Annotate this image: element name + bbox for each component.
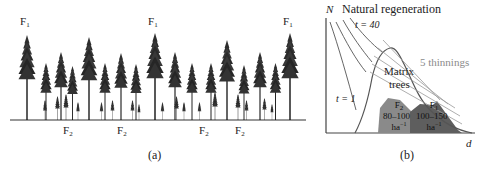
sapling bbox=[161, 102, 165, 120]
tree bbox=[168, 52, 182, 120]
t1-label: t = 1 bbox=[336, 94, 356, 104]
tree bbox=[40, 63, 51, 120]
tree bbox=[54, 52, 68, 120]
label-f2-2: F2 bbox=[117, 125, 127, 138]
y-axis-label: N bbox=[326, 4, 333, 15]
sapling bbox=[131, 100, 135, 120]
sapling bbox=[111, 100, 115, 120]
tree bbox=[219, 40, 235, 120]
sapling bbox=[270, 104, 273, 120]
label-f1-right: F1 bbox=[283, 16, 293, 29]
label-f1-left: F1 bbox=[20, 16, 30, 29]
label-f1-middle: F1 bbox=[148, 16, 158, 29]
tree bbox=[186, 63, 197, 120]
caption-b: (b) bbox=[400, 148, 414, 163]
thinnings-label: 5 thinnings bbox=[420, 57, 469, 68]
sapling bbox=[198, 102, 202, 120]
tree bbox=[114, 53, 127, 120]
sapling bbox=[262, 98, 266, 120]
f2-region-label: F2 80–100 ha−1 bbox=[389, 101, 409, 132]
tree-f1 bbox=[19, 35, 36, 120]
tree bbox=[81, 37, 98, 120]
tree bbox=[239, 65, 250, 120]
sapling bbox=[55, 96, 60, 120]
tree bbox=[67, 66, 78, 120]
f1-region-label: F1 100–150 ha−1 bbox=[422, 101, 446, 132]
sapling bbox=[245, 100, 249, 120]
tree-f1 bbox=[281, 33, 298, 120]
tree bbox=[253, 52, 267, 120]
sapling bbox=[235, 94, 240, 120]
trees-label: trees bbox=[389, 79, 410, 90]
label-f2-4: F2 bbox=[235, 125, 245, 138]
caption-a: (a) bbox=[148, 148, 161, 163]
sapling bbox=[76, 102, 80, 120]
sapling bbox=[182, 102, 186, 120]
figure-canvas bbox=[0, 0, 485, 170]
sapling bbox=[212, 92, 218, 120]
t40-label: t = 40 bbox=[355, 20, 380, 30]
forest-panel bbox=[10, 33, 306, 120]
tree-f1 bbox=[146, 33, 163, 120]
label-f2-3: F2 bbox=[199, 125, 209, 138]
tree bbox=[99, 63, 110, 120]
graph-title: Natural regeneration bbox=[342, 3, 441, 15]
matrix-label: Matrix bbox=[384, 66, 414, 77]
sapling bbox=[100, 102, 104, 120]
x-axis-label: d bbox=[466, 138, 472, 149]
label-f2-1: F2 bbox=[63, 125, 73, 138]
sapling bbox=[63, 94, 68, 120]
sapling bbox=[137, 104, 140, 120]
